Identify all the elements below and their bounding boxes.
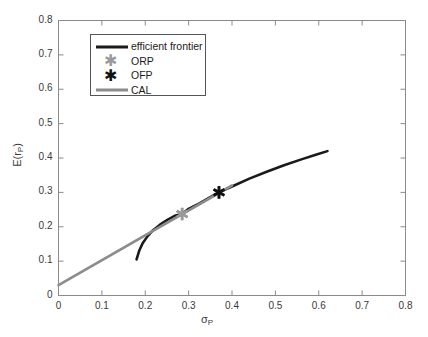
- y-axis-label-subscript: P: [16, 147, 25, 152]
- x-tick-label: 0.7: [345, 300, 379, 311]
- marker-ofp: [214, 186, 225, 198]
- legend-line-swatch: [96, 45, 128, 48]
- y-axis-label-close: ): [11, 143, 23, 147]
- series-line-efficient-frontier: [137, 151, 328, 259]
- y-tick-label: 0.3: [19, 185, 53, 196]
- legend-marker-swatch: ✱: [104, 68, 117, 84]
- x-tick-label: 0.2: [128, 300, 162, 311]
- legend-label: efficient frontier: [131, 41, 203, 52]
- x-axis-label: σP: [201, 313, 213, 327]
- y-tick-label: 0: [19, 289, 53, 300]
- x-axis-label-subscript: P: [208, 318, 213, 327]
- legend-label: CAL: [131, 85, 151, 96]
- legend-entry-cal: CAL: [91, 83, 207, 98]
- data-series: [59, 151, 328, 285]
- legend-key: [91, 83, 131, 98]
- y-axis-label: E(rP): [11, 125, 25, 185]
- y-tick-label: 0.8: [19, 14, 53, 25]
- x-tick-label: 0.1: [85, 300, 119, 311]
- y-tick-label: 0.6: [19, 82, 53, 93]
- x-tick-label: 0: [42, 300, 76, 311]
- chart-figure: 00.10.20.30.40.50.60.70.8 00.10.20.30.40…: [0, 0, 428, 337]
- y-tick-label: 0.2: [19, 220, 53, 231]
- y-tick-label: 0.7: [19, 48, 53, 59]
- legend-label: OFP: [131, 70, 153, 81]
- x-tick-label: 0.5: [258, 300, 292, 311]
- y-tick-label: 0.1: [19, 254, 53, 265]
- x-tick-label: 0.4: [215, 300, 249, 311]
- x-axis-label-main: σ: [201, 313, 208, 325]
- plot-canvas: [0, 0, 428, 337]
- chart-legend: efficient frontier✱ORP✱OFPCAL: [90, 34, 206, 96]
- y-axis-label-main: E(r: [11, 152, 23, 167]
- x-tick-label: 0.6: [302, 300, 336, 311]
- legend-line-swatch: [96, 89, 128, 92]
- legend-label: ORP: [131, 56, 154, 67]
- series-line-cal: [59, 186, 233, 286]
- x-tick-label: 0.3: [172, 300, 206, 311]
- x-tick-label: 0.8: [389, 300, 423, 311]
- legend-key: ✱: [91, 68, 131, 83]
- legend-entry-ofp: ✱OFP: [91, 68, 207, 83]
